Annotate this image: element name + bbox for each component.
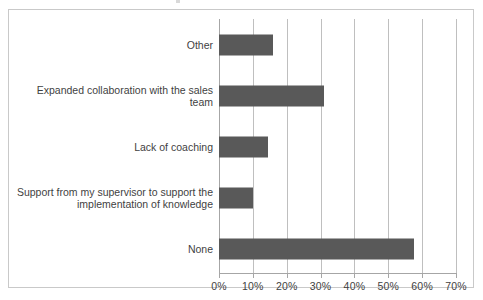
category-label-line: Other xyxy=(13,38,213,51)
category-label-line: implementation of knowledge xyxy=(13,198,213,211)
scan-artifact xyxy=(176,0,180,3)
bar-row: Support from my supervisor to support th… xyxy=(9,172,475,223)
category-label-line: Support from my supervisor to support th… xyxy=(13,185,213,198)
bar-row: Lack of coaching xyxy=(9,121,475,172)
x-tick-label: 60% xyxy=(411,280,433,292)
x-tick-label: 0% xyxy=(211,280,227,292)
bar xyxy=(219,85,324,106)
bar-row: None xyxy=(9,223,475,274)
category-label-line: Expanded collaboration with the sales te… xyxy=(13,83,213,108)
category-label: None xyxy=(13,242,213,255)
x-tick-label: 10% xyxy=(242,280,264,292)
category-label: Expanded collaboration with the sales te… xyxy=(13,83,213,108)
bar-row: Other xyxy=(9,19,475,70)
category-label-line: None xyxy=(13,242,213,255)
category-label: Lack of coaching xyxy=(13,140,213,153)
category-label: Other xyxy=(13,38,213,51)
x-tick-label: 70% xyxy=(445,280,467,292)
x-tick-label: 20% xyxy=(276,280,298,292)
x-tick-label: 40% xyxy=(344,280,366,292)
category-label-line: Lack of coaching xyxy=(13,140,213,153)
category-label: Support from my supervisor to support th… xyxy=(13,185,213,210)
bar xyxy=(219,238,414,259)
bar-rows-group: OtherExpanded collaboration with the sal… xyxy=(9,19,475,274)
plot-area: 0%10%20%30%40%50%60%70% OtherExpanded co… xyxy=(9,10,475,289)
x-tick-label: 30% xyxy=(310,280,332,292)
bar xyxy=(219,187,253,208)
x-tick-label: 50% xyxy=(377,280,399,292)
bar xyxy=(219,34,273,55)
bar xyxy=(219,136,268,157)
chart-frame: 0%10%20%30%40%50%60%70% OtherExpanded co… xyxy=(8,9,474,288)
bar-row: Expanded collaboration with the sales te… xyxy=(9,70,475,121)
